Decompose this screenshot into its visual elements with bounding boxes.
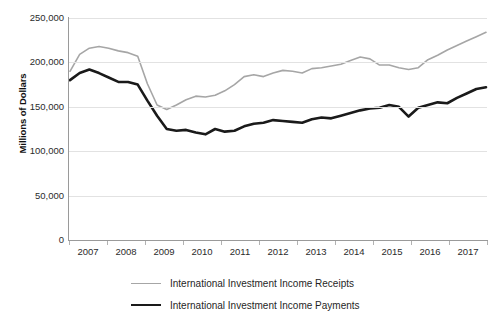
plot-area (69, 18, 487, 240)
x-axis-line (68, 240, 488, 241)
x-axis-tick-mark (335, 241, 336, 245)
y-axis-tick-label: 150,000 (4, 102, 64, 112)
x-axis-tick-label: 2011 (220, 246, 260, 257)
legend-item[interactable]: International Investment Income Payments (0, 294, 500, 316)
y-axis-tick-label: 0 (4, 235, 64, 245)
x-axis-tick-mark (221, 241, 222, 245)
x-axis-tick-mark (107, 241, 108, 245)
legend-line-swatch-icon (131, 283, 161, 284)
x-axis-tick-label: 2014 (334, 246, 374, 257)
x-axis-tick-label: 2007 (68, 246, 108, 257)
x-axis-tick-mark (411, 241, 412, 245)
gridline (69, 62, 487, 63)
series-layer (69, 18, 487, 240)
gridline (69, 18, 487, 19)
x-axis-tick-label: 2015 (372, 246, 412, 257)
series-line (70, 32, 486, 109)
y-axis-tick-label: 250,000 (4, 13, 64, 23)
y-axis-tick-label: 50,000 (4, 191, 64, 201)
x-axis-tick-label: 2008 (106, 246, 146, 257)
line-chart: Millions of Dollars 250,000200,000150,00… (0, 0, 500, 319)
gridline (69, 196, 487, 197)
y-axis-tick-label: 100,000 (4, 146, 64, 156)
x-axis-tick-label: 2010 (182, 246, 222, 257)
legend-item-label: International Investment Income Payments (170, 300, 360, 311)
legend-item[interactable]: International Investment Income Receipts (0, 272, 500, 294)
x-axis-tick-mark (373, 241, 374, 245)
x-axis-tick-label: 2016 (410, 246, 450, 257)
x-axis-tick-mark (487, 241, 488, 245)
x-axis-tick-mark (183, 241, 184, 245)
x-axis-tick-mark (259, 241, 260, 245)
x-axis-tick-mark (69, 241, 70, 245)
y-axis-tick-label: 200,000 (4, 57, 64, 67)
x-axis-tick-label: 2017 (448, 246, 488, 257)
gridline (69, 107, 487, 108)
x-axis-tick-label: 2013 (296, 246, 336, 257)
y-axis-title: Millions of Dollars (17, 14, 28, 214)
y-axis-line (68, 17, 69, 241)
series-line (70, 70, 486, 135)
legend-item-label: International Investment Income Receipts (170, 278, 354, 289)
x-axis-tick-mark (449, 241, 450, 245)
x-axis-tick-mark (297, 241, 298, 245)
x-axis-tick-label: 2012 (258, 246, 298, 257)
gridline (69, 151, 487, 152)
chart-legend: International Investment Income Receipts… (0, 272, 500, 316)
legend-line-swatch-icon (131, 304, 161, 306)
x-axis-tick-label: 2009 (144, 246, 184, 257)
x-axis-tick-mark (145, 241, 146, 245)
